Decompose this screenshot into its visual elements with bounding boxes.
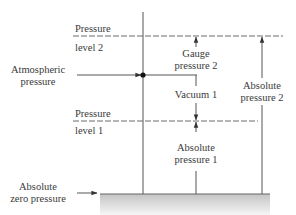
pressure-level-1-label-bottom: level 1 [75,125,103,136]
absolute-zero-label-1: Absolute [19,181,57,192]
pressure-level-2-label-top: Pressure [75,23,111,34]
atmospheric-label-2: pressure [21,76,56,87]
pressure-diagram: Pressure level 2 Atmospheric pressure Pr… [0,0,296,215]
pressure-level-1-label-top: Pressure [75,108,111,119]
absolute-zero-label-2: zero pressure [10,193,66,204]
gauge-pressure-2-label-1: Gauge [182,48,210,59]
absolute-pressure-1-label-1: Absolute [177,142,215,153]
absolute-pressure-1-label-2: pressure 1 [175,154,218,165]
pressure-level-2-label-bottom: level 2 [75,42,103,53]
vacuum-1-label: Vacuum 1 [175,89,217,100]
atmospheric-label-1: Atmospheric [11,64,66,75]
absolute-pressure-2-label-1: Absolute [243,80,281,91]
absolute-pressure-2-label-2: pressure 2 [241,92,284,103]
atmospheric-point [140,72,145,77]
gauge-pressure-2-label-2: pressure 2 [175,60,218,71]
absolute-zero-ground [100,194,270,215]
